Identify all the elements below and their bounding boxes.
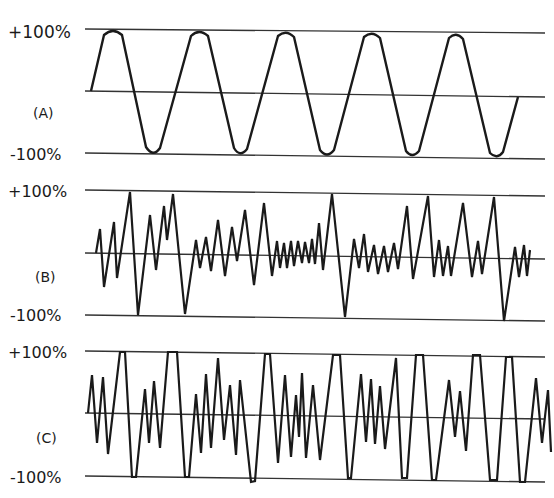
panel-c-top-label: +100% (8, 343, 67, 362)
panel-c: +100% (C) -100% (8, 343, 551, 487)
waveform-figure: +100% (A) -100% +100% (B) -100% +100% (C… (0, 0, 554, 498)
panel-b-waveform (96, 192, 530, 321)
panel-b-bottom-label: -100% (10, 306, 62, 325)
panel-b-top-label: +100% (8, 182, 67, 201)
panel-c-bottom-reference-line (85, 476, 545, 482)
panel-a: +100% (A) -100% (8, 22, 545, 164)
panel-a-bottom-label: -100% (10, 145, 62, 164)
panel-b-label: (B) (35, 269, 56, 285)
panel-c-bottom-label: -100% (10, 468, 62, 487)
panel-a-top-reference-line (85, 29, 545, 33)
panel-a-label: (A) (33, 105, 54, 121)
panel-c-waveform (88, 352, 551, 482)
panel-b-bottom-reference-line (85, 315, 545, 321)
panel-c-label: (C) (36, 430, 57, 446)
panel-b-top-reference-line (85, 190, 545, 196)
panel-a-top-label: +100% (8, 22, 71, 42)
panel-b: +100% (B) -100% (8, 182, 545, 325)
